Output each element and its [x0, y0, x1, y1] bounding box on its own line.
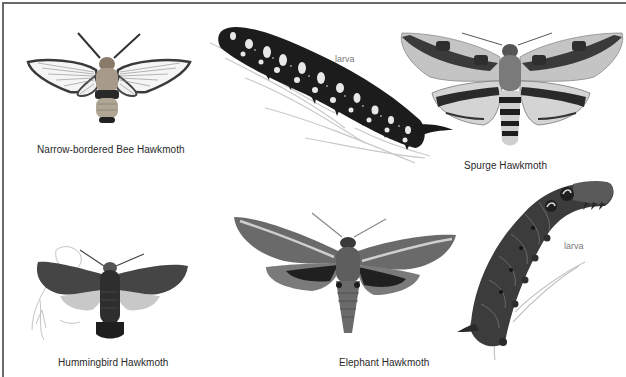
spurge-hawkmoth-illustration	[400, 15, 626, 155]
caption-narrow-bordered-bee-hawkmoth: Narrow-bordered Bee Hawkmoth	[37, 144, 185, 155]
hummingbird-hawkmoth-illustration	[20, 240, 200, 350]
caption-elephant-hawkmoth: Elephant Hawkmoth	[339, 357, 429, 368]
larva-label-spurge: larva	[335, 54, 355, 64]
narrow-bordered-bee-hawkmoth-illustration	[0, 0, 210, 140]
caption-spurge-hawkmoth: Spurge Hawkmoth	[464, 160, 547, 171]
elephant-hawkmoth-larva-illustration	[455, 172, 626, 362]
elephant-hawkmoth-illustration	[230, 205, 460, 335]
hawkmoth-plate: Narrow-bordered Bee Hawkmoth	[0, 0, 626, 377]
caption-hummingbird-hawkmoth: Hummingbird Hawkmoth	[58, 357, 168, 368]
larva-label-elephant: larva	[564, 241, 584, 251]
